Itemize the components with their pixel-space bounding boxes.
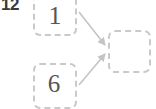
addend-1-value: 1 bbox=[49, 3, 62, 29]
addend-2-value: 6 bbox=[48, 71, 61, 96]
addend-2-box[interactable]: 6 bbox=[33, 63, 77, 109]
worksheet-problem-canvas: 12 1 6 bbox=[0, 0, 156, 109]
addend-1-box[interactable]: 1 bbox=[33, 0, 77, 36]
arrow-addend-1-to-result bbox=[79, 12, 105, 45]
arrow-addend-2-to-result bbox=[79, 54, 105, 85]
result-box[interactable] bbox=[108, 30, 151, 73]
